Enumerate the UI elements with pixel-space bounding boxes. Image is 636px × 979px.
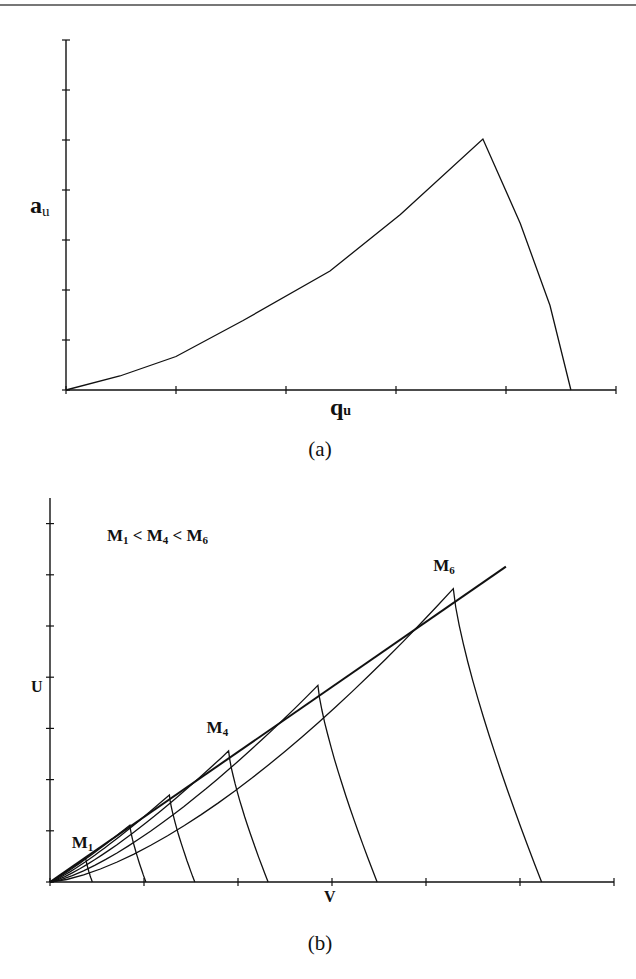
chart-b: M1M4M6 M1 < M4 < M6 U V (b): [0, 0, 636, 979]
chart-b-caption: (b): [308, 931, 333, 955]
chart-b-label-m6: M6: [433, 556, 455, 576]
chart-b-x-axis-label: V: [324, 888, 336, 905]
chart-b-y-axis-label: U: [31, 678, 43, 695]
chart-b-series: M1M4M6: [50, 556, 542, 882]
chart-b-label-m1: M1: [72, 833, 94, 853]
chart-b-series-m6: [50, 589, 542, 882]
chart-b-label-m4: M4: [207, 718, 229, 738]
chart-b-series-m4: [50, 751, 268, 882]
chart-b-annotation: M1 < M4 < M6: [107, 526, 209, 546]
